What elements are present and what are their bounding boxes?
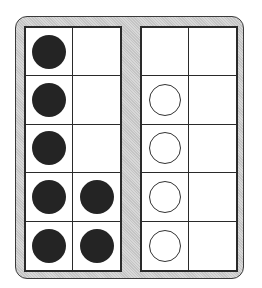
filled-counter-icon [80,180,114,214]
frame-cell [189,125,236,173]
filled-counter-icon [32,229,66,263]
filled-counter-icon [32,83,66,117]
frame-cell [26,173,73,221]
frame-cell [142,173,189,221]
frame-cell [142,222,189,270]
frame-cell [73,222,120,270]
empty-counter-icon [149,181,181,213]
frame-cell [26,125,73,173]
empty-counter-icon [149,132,181,164]
frame-cell [142,125,189,173]
filled-counter-icon [32,35,66,69]
filled-counter-icon [32,180,66,214]
frame-cell [73,76,120,124]
frame-cell [142,28,189,76]
left-ten-frame [24,26,122,272]
empty-counter-icon [149,84,181,116]
frame-cell [189,28,236,76]
frame-cell [189,173,236,221]
filled-counter-icon [80,229,114,263]
right-ten-frame [140,26,238,272]
frame-cell [73,125,120,173]
filled-counter-icon [32,131,66,165]
frame-cell [26,222,73,270]
frame-cell [189,222,236,270]
frame-cell [142,76,189,124]
frame-cell [189,76,236,124]
frame-cell [73,28,120,76]
frame-cell [26,28,73,76]
empty-counter-icon [149,230,181,262]
frame-cell [73,173,120,221]
frame-cell [26,76,73,124]
